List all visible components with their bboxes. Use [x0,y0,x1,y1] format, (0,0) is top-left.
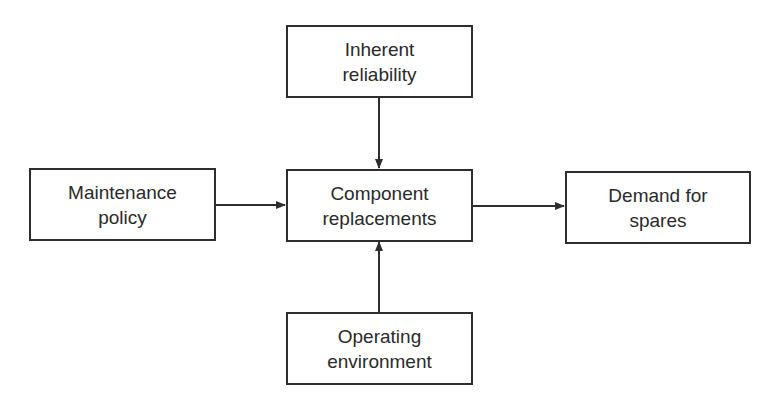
node-label-line2: policy [98,205,147,230]
node-label-line2: environment [327,349,432,374]
node-label-line2: spares [629,208,686,233]
node-demand-for-spares: Demand for spares [565,171,751,244]
node-inherent-reliability: Inherent reliability [286,25,473,98]
node-label-line1: Maintenance [68,180,177,205]
node-maintenance-policy: Maintenance policy [29,168,216,241]
node-label-line2: replacements [322,206,436,231]
node-label-line1: Inherent [345,37,415,62]
node-operating-environment: Operating environment [286,312,473,385]
node-label-line1: Component [330,181,428,206]
node-label-line2: reliability [343,62,417,87]
node-component-replacements: Component replacements [286,169,473,242]
node-label-line1: Operating [338,324,421,349]
node-label-line1: Demand for [608,183,707,208]
